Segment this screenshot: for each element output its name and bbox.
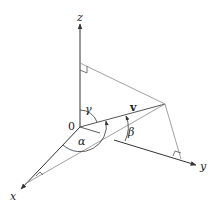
direction-angles-diagram: z y x 0 v γ α β (0, 0, 221, 211)
projection-y (165, 104, 181, 159)
x-axis-label: x (10, 190, 17, 203)
projection-x (25, 104, 165, 184)
z-axis-label: z (76, 11, 83, 24)
vector-v-label: v (129, 101, 137, 114)
beta-label: β (127, 126, 134, 139)
y-axis-label: y (199, 160, 207, 173)
gamma-label: γ (85, 103, 92, 116)
projection-z (80, 63, 165, 104)
origin-label: 0 (68, 120, 75, 133)
alpha-label: α (78, 135, 86, 148)
right-angle-z (80, 66, 87, 73)
y-axis (114, 140, 196, 165)
alpha-ref (80, 127, 100, 133)
